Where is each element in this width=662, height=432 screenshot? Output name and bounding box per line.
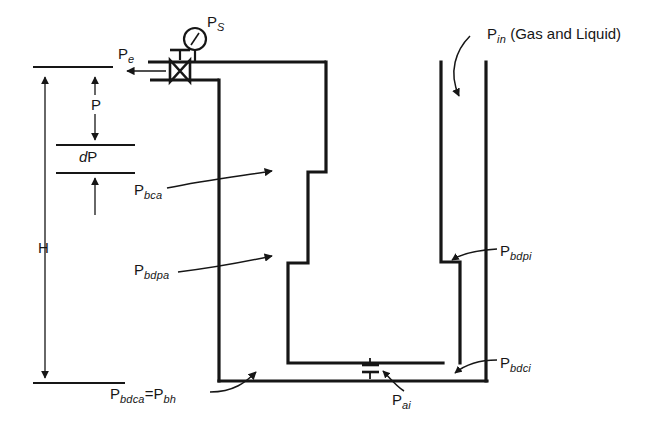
callout-arrows — [167, 36, 497, 392]
gas-lift-valve-icon — [362, 358, 379, 379]
wellhead-group — [127, 28, 326, 82]
label-pbdpa: Pbdpa — [134, 262, 169, 281]
label-pin: Pin (Gas and Liquid) — [487, 26, 621, 45]
arrow-pbdpa-callout — [178, 256, 272, 272]
dimension-label-p: P — [91, 97, 101, 112]
label-pbdpi: Pbdpi — [500, 243, 532, 262]
label-pbdci: Pbdci — [500, 355, 531, 374]
inner-stepped-boundary-left — [288, 62, 443, 363]
arrow-pbdpi-callout — [452, 249, 497, 260]
dimension-label-h: H — [38, 240, 49, 255]
dimension-stack — [33, 67, 135, 383]
label-pai: Pai — [392, 392, 411, 411]
label-pbdca-eq-pbh: Pbdca=Pbh — [110, 386, 176, 405]
dimension-label-dp: dP — [79, 149, 97, 164]
inner-wall-step-path — [288, 62, 443, 363]
label-ps: PS — [207, 14, 225, 33]
arrow-pin-inflow — [454, 36, 470, 96]
tubing-group — [441, 62, 486, 381]
label-pbca: Pbca — [134, 182, 162, 201]
pressure-diagram-figure: PS Pe Pin (Gas and Liquid) Pbca Pbdpa Pb… — [0, 0, 662, 432]
casing-outline — [219, 80, 487, 381]
label-pe: Pe — [118, 46, 134, 65]
diagram-canvas — [0, 0, 662, 432]
tubing-inner-left-wall — [441, 62, 460, 363]
